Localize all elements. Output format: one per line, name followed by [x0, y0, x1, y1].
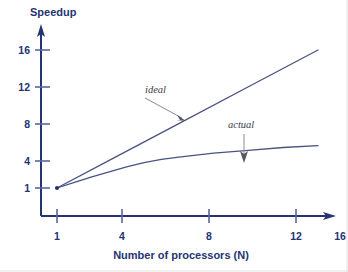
x-tick-label-16: 16 [334, 230, 346, 242]
x-tick-label-1: 1 [54, 230, 60, 242]
origin-point-marker [55, 186, 59, 190]
x-tick-label-4: 4 [119, 230, 125, 242]
x-tick-label-12: 12 [290, 230, 302, 242]
y-tick-label-16: 16 [18, 44, 30, 56]
speedup-chart: Speedup 16 12 8 4 1 [0, 0, 348, 272]
y-tick-label-8: 8 [24, 118, 30, 130]
annotation-label-ideal: ideal [145, 84, 166, 95]
x-axis-title: Number of processors (N) [113, 249, 249, 261]
x-tick-label-8: 8 [206, 230, 212, 242]
y-axis-title: Speedup [30, 6, 77, 18]
y-tick-label-1: 1 [24, 182, 30, 194]
y-tick-label-4: 4 [24, 155, 30, 167]
chart-canvas: Speedup 16 12 8 4 1 [0, 0, 348, 272]
annotation-label-actual: actual [228, 119, 254, 130]
y-tick-label-12: 12 [18, 81, 30, 93]
